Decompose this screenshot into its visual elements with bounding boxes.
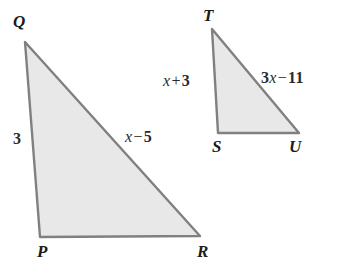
vertex-label-s: S	[212, 138, 222, 155]
side-qr-constant: 5	[144, 128, 152, 145]
side-label-qp: 3	[13, 131, 21, 147]
triangles-canvas	[0, 0, 352, 268]
vertex-label-r: R	[197, 243, 209, 260]
side-tu-variable: x	[269, 69, 276, 86]
vertex-label-q: Q	[13, 13, 25, 30]
side-tu-constant: 11	[288, 69, 304, 86]
side-qp-value: 3	[13, 130, 21, 147]
vertex-label-p: P	[37, 243, 48, 260]
side-tu-operator: −	[277, 69, 288, 86]
side-label-qr: x−5	[125, 129, 152, 145]
vertex-label-t: T	[203, 7, 214, 24]
vertex-label-u: U	[289, 138, 301, 155]
side-label-tu: 3x−11	[261, 70, 304, 86]
side-ts-constant: 3	[182, 72, 190, 89]
side-ts-operator: +	[170, 72, 181, 89]
side-qr-operator: −	[132, 128, 143, 145]
geometry-figure: Q P R T S U 3 x−5 x+3 3x−11	[0, 0, 352, 268]
side-label-ts: x+3	[163, 73, 190, 89]
